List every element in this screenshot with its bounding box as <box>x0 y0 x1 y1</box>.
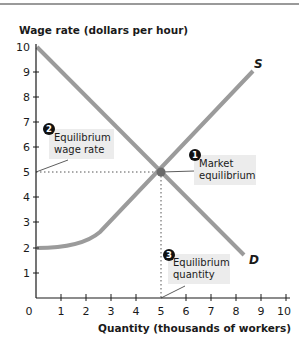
callout1-pointer <box>161 171 195 172</box>
svg-text:4: 4 <box>23 191 30 204</box>
x-axis-title: Quantity (thousands of workers) <box>98 322 291 334</box>
svg-text:3: 3 <box>108 305 115 318</box>
callout-market-equilibrium: Market equilibrium <box>194 155 256 185</box>
y-tick-labels: 1 2 3 4 5 6 7 8 9 10 <box>16 41 30 280</box>
svg-text:7: 7 <box>23 116 30 129</box>
svg-text:3: 3 <box>23 216 30 229</box>
svg-text:2: 2 <box>23 242 30 255</box>
callout-equilibrium-wage-rate: Equilibrium wage rate <box>49 129 114 159</box>
svg-text:9: 9 <box>23 66 30 79</box>
badge-3: 3 <box>163 249 175 261</box>
callout1-line1: Market <box>199 158 251 170</box>
callout3-line1: Equilibrium <box>173 257 225 269</box>
callout2-pointer <box>36 160 68 172</box>
supply-label: S <box>254 57 263 71</box>
svg-text:1: 1 <box>58 305 65 318</box>
svg-text:10: 10 <box>16 41 30 54</box>
svg-text:6: 6 <box>183 305 190 318</box>
callout-equilibrium-quantity: Equilibrium quantity <box>168 254 230 284</box>
callout1-line2: equilibrium <box>199 170 251 182</box>
svg-text:2: 2 <box>83 305 90 318</box>
callout3-pointer <box>161 286 185 298</box>
x-tick-labels: 0 1 2 3 4 5 6 7 8 9 10 <box>26 305 292 318</box>
svg-text:6: 6 <box>23 141 30 154</box>
callout2-line2: wage rate <box>54 144 109 156</box>
svg-text:1: 1 <box>23 267 30 280</box>
svg-text:0: 0 <box>26 305 33 318</box>
demand-label: D <box>249 253 259 267</box>
equilibrium-point <box>157 168 166 177</box>
svg-text:5: 5 <box>158 305 165 318</box>
badge-1: 1 <box>189 149 201 161</box>
svg-text:9: 9 <box>258 305 265 318</box>
svg-text:5: 5 <box>23 166 30 179</box>
svg-text:7: 7 <box>208 305 215 318</box>
badge-2: 2 <box>43 123 55 135</box>
svg-text:4: 4 <box>133 305 140 318</box>
svg-text:8: 8 <box>233 305 240 318</box>
callout3-line2: quantity <box>173 269 225 281</box>
svg-text:10: 10 <box>277 305 291 318</box>
svg-text:8: 8 <box>23 91 30 104</box>
callout2-line1: Equilibrium <box>54 132 109 144</box>
